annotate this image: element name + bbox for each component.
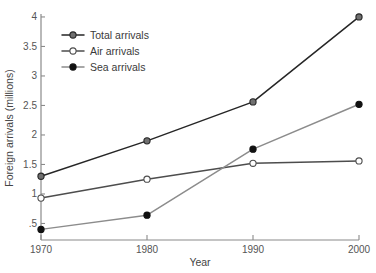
data-series-layer [38,14,362,233]
y-tick-label: 3.5 [23,41,37,52]
y-tick-label: 4 [31,11,37,22]
y-tick-label: 1.5 [23,159,37,170]
series-line [41,17,359,176]
x-tick-label: 1990 [242,244,265,255]
y-tick-label: 1 [31,188,37,199]
data-point-marker [144,212,150,218]
series-line [41,104,359,229]
y-axis-title: Foreign arrivals (millions) [3,69,15,186]
chart-canvas: .511.522.533.54 1970198019902000 Total a… [0,0,376,273]
data-point-marker [250,146,256,152]
x-tick-label: 2000 [348,244,371,255]
data-point-marker [356,101,362,107]
legend-item-total-arrivals: Total arrivals [62,29,149,41]
data-point-marker [38,173,44,179]
data-point-marker [356,158,362,164]
y-tick-label: 2 [31,129,37,140]
x-tick-label: 1980 [136,244,159,255]
y-axis: .511.522.533.54 [23,11,45,240]
series-total-arrivals [38,14,362,180]
legend-marker-swatch [70,64,76,70]
line-chart: .511.522.533.54 1970198019902000 Total a… [0,0,376,273]
legend-label: Air arrivals [90,45,140,57]
data-point-marker [356,14,362,20]
y-tick-label: 3 [31,70,37,81]
chart-legend: Total arrivalsAir arrivalsSea arrivals [62,29,149,73]
legend-marker-swatch [70,48,76,54]
data-point-marker [144,176,150,182]
legend-item-air-arrivals: Air arrivals [62,45,140,57]
data-point-marker [250,99,256,105]
data-point-marker [250,160,256,166]
legend-label: Total arrivals [90,29,149,41]
legend-label: Sea arrivals [90,61,145,73]
legend-marker-swatch [70,32,76,38]
x-axis-title: Year [189,256,211,268]
y-tick-label: 2.5 [23,100,37,111]
data-point-marker [38,195,44,201]
x-axis-ticks: 1970198019902000 [30,235,371,255]
series-air-arrivals [38,158,362,201]
y-tick-label: .5 [29,218,38,229]
legend-item-sea-arrivals: Sea arrivals [62,61,145,73]
series-line [41,161,359,198]
data-point-marker [144,138,150,144]
x-axis: 1970198019902000 [30,235,371,255]
data-point-marker [38,226,44,232]
x-tick-label: 1970 [30,244,53,255]
